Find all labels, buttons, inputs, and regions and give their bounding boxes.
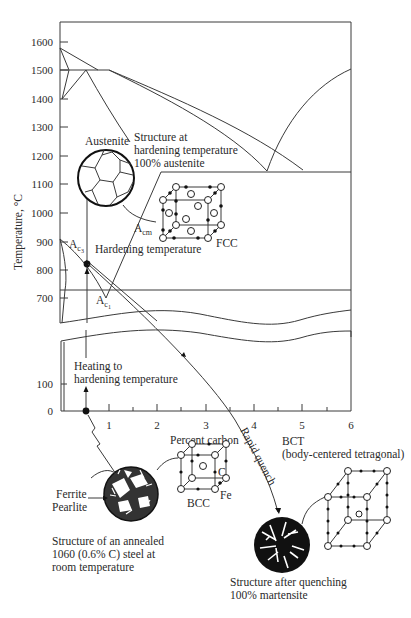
y-tick-1000: 1000 (31, 207, 54, 219)
ferrite-label: Ferrite (56, 488, 87, 500)
x-tick-2: 2 (154, 419, 160, 431)
quenched-label-1: Structure after quenching (230, 576, 347, 589)
structure-at-label-3: 100% austenite (134, 157, 205, 169)
fcc-lattice (160, 184, 225, 242)
heating-label-1: Heating to (74, 360, 122, 373)
bct-full-label: (body-centered tetragonal) (282, 448, 404, 461)
bct-label: BCT (282, 435, 304, 447)
hardening-point-dot (84, 261, 91, 268)
austenite-micrograph (78, 150, 134, 206)
x-tick-1: 1 (106, 419, 112, 431)
bcc-leader (157, 458, 178, 470)
arrow-down-icon (275, 508, 281, 514)
bct-leader (302, 497, 325, 524)
y-tick-700: 700 (37, 292, 54, 304)
annealed-label-2: 1060 (0.6% C) steel at (52, 548, 156, 561)
ac1-label: Ac1 (96, 294, 111, 310)
hardening-temperature-label: Hardening temperature (95, 243, 201, 256)
y-axis-upper: 1600 1500 1400 1300 1200 1100 1000 900 8… (31, 36, 68, 304)
bcc-label: BCC (187, 497, 210, 509)
structure-at-label-1: Structure at (134, 131, 188, 143)
annealed-micrograph (104, 467, 158, 521)
iron-carbon-phase-diagram: 1600 1500 1400 1300 1200 1100 1000 900 8… (0, 0, 411, 618)
annealed-label-3: room temperature (52, 561, 134, 574)
x-tick-6: 6 (348, 419, 354, 431)
y-tick-1100: 1100 (31, 178, 53, 190)
annealed-label-1: Structure of an annealed (52, 535, 164, 547)
y-tick-0: 0 (48, 405, 54, 417)
x-tick-5: 5 (299, 419, 305, 431)
ac3-label: Ac3 (69, 238, 84, 254)
pearlite-label: Pearlite (52, 501, 87, 513)
y-tick-100: 100 (37, 378, 54, 390)
c-atom-label: C (218, 466, 226, 478)
zigzag-leader (88, 415, 116, 474)
heating-label-2: hardening temperature (74, 373, 178, 386)
y-tick-800: 800 (37, 264, 54, 276)
fe-atom-label: Fe (220, 489, 232, 501)
austenite-label: Austenite (85, 135, 129, 147)
y-tick-1300: 1300 (31, 121, 54, 133)
y-tick-1400: 1400 (31, 93, 54, 105)
acm-label: Acm (134, 222, 153, 237)
start-point-dot (83, 408, 90, 415)
y-tick-1200: 1200 (31, 150, 54, 162)
y-axis-label: Temperature, °C (12, 194, 25, 270)
bct-lattice (325, 468, 391, 550)
quenched-label-2: 100% martensite (230, 589, 308, 601)
y-tick-900: 900 (37, 236, 54, 248)
y-tick-1500: 1500 (31, 64, 54, 76)
acm-leader (123, 205, 156, 222)
martensite-micrograph (254, 517, 310, 573)
y-tick-1600: 1600 (31, 36, 54, 48)
rapid-quench-label: Rapid quench (237, 425, 278, 487)
structure-at-label-2: hardening temperature (134, 144, 238, 157)
fcc-label: FCC (216, 237, 238, 249)
x-tick-3: 3 (203, 419, 209, 431)
x-tick-4: 4 (251, 419, 257, 431)
arrow-up-icon (84, 386, 89, 392)
